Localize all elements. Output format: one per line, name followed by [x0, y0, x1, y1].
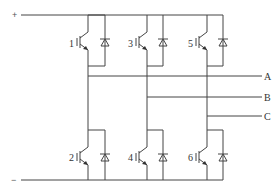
igbt-switch-3: 3 [128, 15, 147, 66]
igbt-switch-2: 2 [69, 114, 105, 180]
negative-rail-label: − [11, 175, 16, 185]
igbt-switch-5: 5 [188, 15, 207, 66]
phase-output-c: C [207, 111, 271, 122]
svg-text:A: A [264, 71, 272, 82]
switch-label: 6 [188, 152, 193, 163]
switch-label: 3 [128, 38, 133, 49]
leg-1: 1 2 [69, 15, 110, 180]
inverter-circuit-diagram: + − 1 [0, 0, 279, 193]
switch-label: 1 [69, 38, 74, 49]
svg-text:C: C [264, 111, 271, 122]
diode-2 [100, 130, 110, 180]
phase-output-a: A [88, 71, 272, 82]
svg-text:B: B [264, 92, 271, 103]
positive-rail-label: + [12, 10, 17, 20]
diode-4 [158, 130, 168, 180]
diode-6 [218, 130, 228, 180]
phase-output-b: B [147, 92, 271, 103]
igbt-switch-4: 4 [128, 130, 163, 180]
diode-1 [88, 15, 110, 66]
switch-label: 5 [188, 38, 193, 49]
igbt-switch-1: 1 [69, 15, 88, 66]
switch-label: 2 [69, 152, 74, 163]
diode-3 [147, 15, 168, 66]
igbt-switch-6: 6 [188, 130, 223, 180]
diode-5 [207, 15, 228, 66]
switch-label: 4 [128, 152, 133, 163]
